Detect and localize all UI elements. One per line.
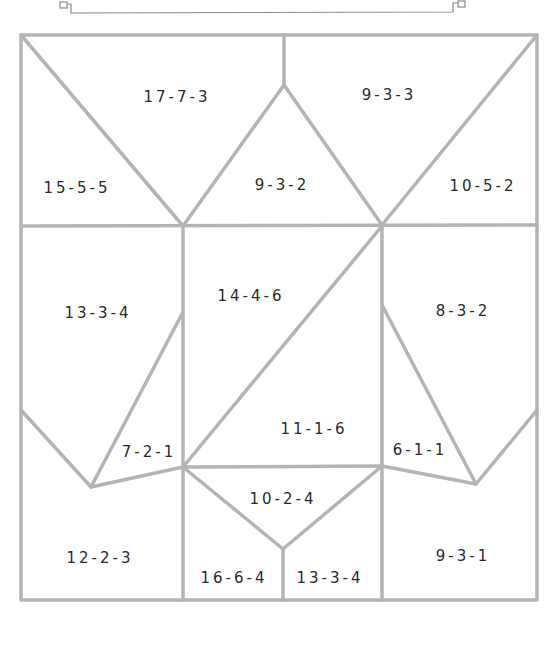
bracket-right-square-icon <box>458 1 465 7</box>
region-label: 13-3-4 <box>65 304 132 322</box>
region-label: 8-3-2 <box>436 302 490 320</box>
region-label: 17-7-3 <box>144 88 211 106</box>
region-label: 9-3-1 <box>436 547 490 565</box>
region-label: 9-3-2 <box>255 176 309 194</box>
bracket-left-square-icon <box>60 2 67 8</box>
region-label: 11-1-6 <box>281 420 348 438</box>
region-label: 14-4-6 <box>218 287 285 305</box>
region-label: 9-3-3 <box>362 86 416 104</box>
region-label: 7-2-1 <box>122 443 176 461</box>
region-label: 10-2-4 <box>250 490 317 508</box>
region-label: 12-2-3 <box>67 549 134 567</box>
top-bracket <box>60 1 465 13</box>
region-label: 16-6-4 <box>201 569 268 587</box>
bracket-line <box>67 3 458 13</box>
region-label: 6-1-1 <box>393 441 447 459</box>
region-label: 10-5-2 <box>450 177 517 195</box>
region-label: 13-3-4 <box>297 569 364 587</box>
region-label: 15-5-5 <box>44 179 111 197</box>
